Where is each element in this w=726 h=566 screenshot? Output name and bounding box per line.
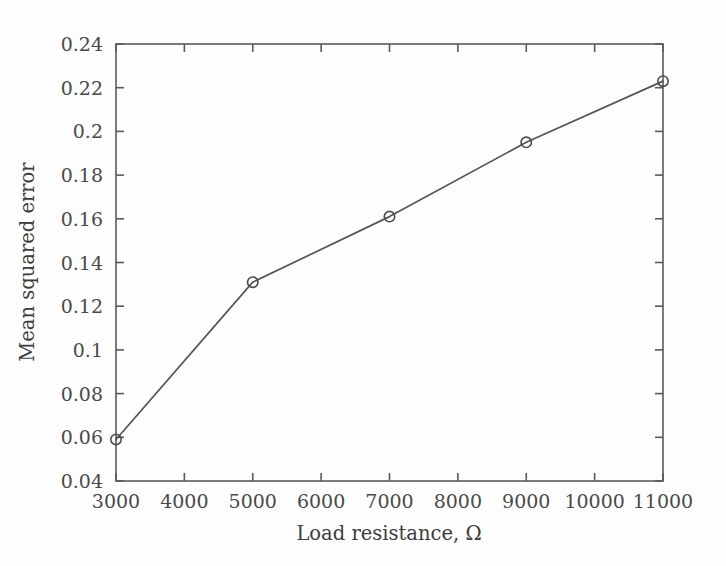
x-tick-label: 9000: [502, 490, 550, 512]
line-chart: 30004000500060007000800090001000011000 0…: [0, 0, 726, 566]
x-tick-label: 7000: [365, 490, 413, 512]
x-tick-label: 3000: [92, 490, 140, 512]
y-tick-label: 0.1: [73, 339, 103, 361]
y-tick-label: 0.06: [61, 426, 103, 448]
x-tick-label: 4000: [160, 490, 208, 512]
y-tick-label: 0.14: [61, 252, 103, 274]
x-tick-label: 5000: [229, 490, 277, 512]
y-tick-label: 0.22: [61, 77, 103, 99]
y-tick-label: 0.24: [61, 33, 103, 55]
chart-figure: 30004000500060007000800090001000011000 0…: [0, 0, 726, 566]
x-tick-label: 11000: [633, 490, 693, 512]
y-tick-label: 0.16: [61, 208, 103, 230]
x-axis-tick-labels: 30004000500060007000800090001000011000: [92, 490, 693, 512]
y-tick-label: 0.12: [61, 295, 103, 317]
y-axis-title: Mean squared error: [16, 162, 39, 362]
y-tick-label: 0.18: [61, 164, 103, 186]
x-axis-title: Load resistance, Ω: [296, 522, 481, 545]
x-tick-label: 8000: [434, 490, 482, 512]
x-tick-label: 10000: [564, 490, 624, 512]
y-tick-label: 0.2: [73, 120, 103, 142]
y-tick-label: 0.08: [61, 383, 103, 405]
y-tick-label: 0.04: [61, 470, 103, 492]
x-tick-label: 6000: [297, 490, 345, 512]
